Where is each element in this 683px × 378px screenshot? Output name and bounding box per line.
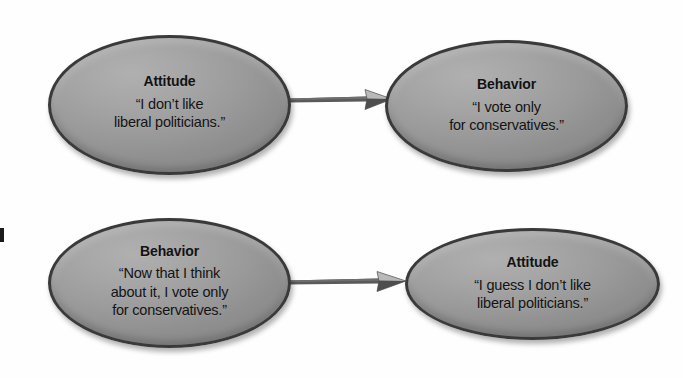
node-quote-line: for conservatives.” <box>449 116 564 135</box>
node-quote-line: “Now that I think <box>111 264 229 283</box>
node-quote: “I vote only for conservatives.” <box>440 98 573 135</box>
node-quote: “Now that I think about it, I vote only … <box>102 264 238 320</box>
node-behavior-bottom-left: Behavior “Now that I think about it, I v… <box>48 218 291 348</box>
arrow-attitude-to-behavior <box>289 88 393 114</box>
node-quote-line: for conservatives.” <box>111 301 229 320</box>
node-quote-line: “I guess I don’t like <box>474 276 591 295</box>
diagram-canvas: Attitude “I don’t like liberal politicia… <box>0 0 683 378</box>
node-quote-line: liberal politicians.” <box>114 113 225 132</box>
node-title: Behavior <box>477 77 536 92</box>
node-title: Attitude <box>506 255 558 270</box>
node-quote: “I guess I don’t like liberal politician… <box>465 276 600 313</box>
node-quote-line: about it, I vote only <box>111 283 229 302</box>
page-edge-artifact <box>0 228 4 242</box>
node-attitude-bottom-right: Attitude “I guess I don’t like liberal p… <box>405 228 660 340</box>
node-quote-line: “I don’t like <box>114 95 225 114</box>
node-attitude-top-left: Attitude “I don’t like liberal politicia… <box>48 35 291 175</box>
node-title: Behavior <box>140 244 199 259</box>
arrow-behavior-to-attitude <box>287 270 409 296</box>
node-quote-line: “I vote only <box>449 98 564 117</box>
node-quote-line: liberal politicians.” <box>474 294 591 313</box>
node-title: Attitude <box>143 74 195 89</box>
node-quote: “I don’t like liberal politicians.” <box>105 95 234 132</box>
node-behavior-top-right: Behavior “I vote only for conservatives.… <box>385 40 628 172</box>
